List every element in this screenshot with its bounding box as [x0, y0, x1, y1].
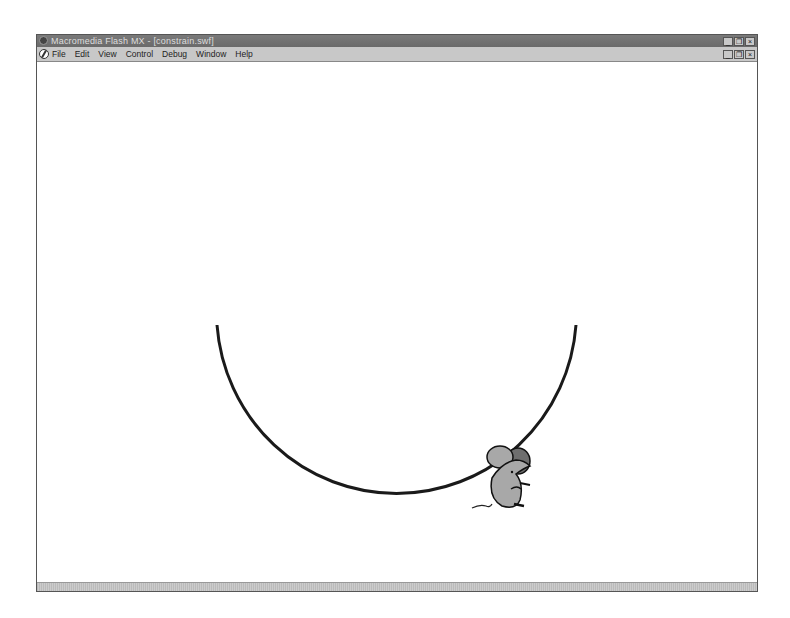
close-button[interactable]: × [745, 37, 755, 46]
doc-close-button[interactable]: × [745, 50, 755, 59]
menu-window[interactable]: Window [196, 49, 226, 59]
flash-app-icon[interactable] [39, 36, 48, 45]
flash-stage[interactable] [37, 62, 757, 583]
restore-button[interactable]: ❐ [734, 37, 744, 46]
document-controls: _ ❐ × [723, 50, 755, 59]
flash-player-window: Macromedia Flash MX - [constrain.swf] _ … [36, 34, 758, 592]
window-controls: _ ❐ × [723, 37, 755, 46]
doc-restore-button[interactable]: ❐ [734, 50, 744, 59]
status-bar [37, 582, 757, 591]
menu-edit[interactable]: Edit [75, 49, 90, 59]
window-title: Macromedia Flash MX - [constrain.swf] [51, 36, 214, 46]
minimize-button[interactable]: _ [723, 37, 733, 46]
menu-file[interactable]: File [52, 49, 66, 59]
title-bar[interactable]: Macromedia Flash MX - [constrain.swf] _ … [37, 35, 757, 47]
menu-view[interactable]: View [98, 49, 116, 59]
menu-bar: File Edit View Control Debug Window Help… [37, 47, 757, 62]
document-icon[interactable] [39, 49, 49, 59]
menu-debug[interactable]: Debug [162, 49, 187, 59]
doc-minimize-button[interactable]: _ [723, 50, 733, 59]
menu-control[interactable]: Control [126, 49, 153, 59]
menu-help[interactable]: Help [235, 49, 252, 59]
